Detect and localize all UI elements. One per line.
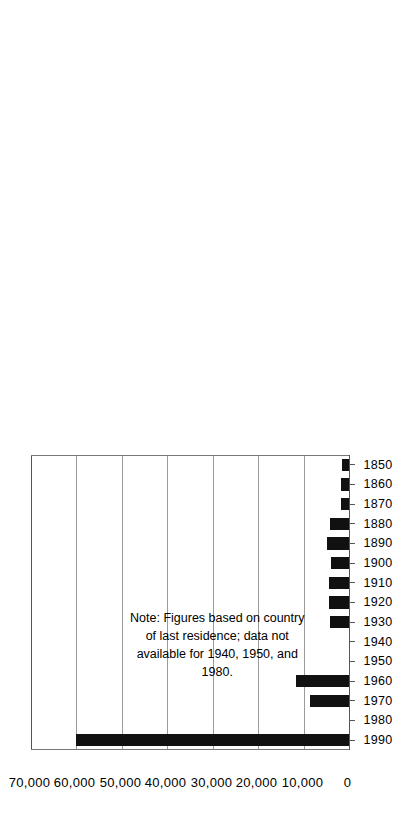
category-label-1920: 1920: [358, 596, 398, 610]
bar-1970: [310, 695, 349, 707]
gridline-50000: [122, 455, 123, 750]
bar-1920: [329, 596, 349, 608]
category-label-1930: 1930: [358, 615, 398, 629]
category-label-1940: 1940: [358, 635, 398, 649]
tick-1850: [349, 464, 355, 465]
tick-1970: [349, 700, 355, 701]
gridline-10000: [304, 455, 305, 750]
plot-area: [31, 455, 349, 750]
tick-1950: [349, 661, 355, 662]
category-label-1960: 1960: [358, 674, 398, 688]
bar-1850: [342, 459, 349, 471]
category-label-1980: 1980: [358, 714, 398, 728]
gridline-60000: [76, 455, 77, 750]
category-label-1990: 1990: [358, 733, 398, 747]
tick-1910: [349, 582, 355, 583]
tick-1920: [349, 602, 355, 603]
plot-frame-end: [31, 455, 349, 456]
category-label-1900: 1900: [358, 556, 398, 570]
bar-1910: [329, 577, 349, 589]
tick-1870: [349, 504, 355, 505]
bar-1930: [330, 616, 349, 628]
chart-canvas: 010,00020,00030,00040,00050,00060,00070,…: [0, 0, 404, 830]
bar-1900: [331, 557, 349, 569]
category-label-1890: 1890: [358, 537, 398, 551]
tick-1940: [349, 641, 355, 642]
value-label-70000: 70,000: [0, 775, 60, 790]
tick-1990: [349, 740, 355, 741]
tick-1900: [349, 563, 355, 564]
tick-1930: [349, 622, 355, 623]
chart-note: Note: Figures based on country of last r…: [102, 609, 332, 682]
bar-1890: [327, 537, 349, 549]
plot-frame-start: [31, 749, 349, 750]
gridline-20000: [258, 455, 259, 750]
gridline-30000: [213, 455, 214, 750]
tick-1860: [349, 484, 355, 485]
category-label-1880: 1880: [358, 517, 398, 531]
category-label-1850: 1850: [358, 458, 398, 472]
tick-1890: [349, 543, 355, 544]
bar-chart-figure: 010,00020,00030,00040,00050,00060,00070,…: [0, 0, 404, 830]
gridline-70000: [31, 455, 32, 750]
bar-1860: [341, 478, 349, 490]
category-label-1950: 1950: [358, 655, 398, 669]
tick-1960: [349, 681, 355, 682]
category-label-1860: 1860: [358, 478, 398, 492]
gridline-40000: [167, 455, 168, 750]
category-label-1870: 1870: [358, 497, 398, 511]
category-label-1970: 1970: [358, 694, 398, 708]
bar-1880: [330, 518, 349, 530]
category-label-1910: 1910: [358, 576, 398, 590]
bar-1870: [341, 498, 349, 510]
tick-1880: [349, 523, 355, 524]
bar-1990: [76, 734, 349, 746]
tick-1980: [349, 720, 355, 721]
